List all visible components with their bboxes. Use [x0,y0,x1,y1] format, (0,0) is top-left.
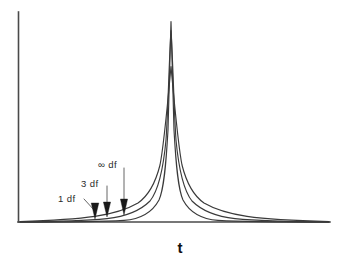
plot-canvas: 1 df 3 df ∞ df t [0,0,338,271]
annotation-1df: 1 df [58,193,99,219]
arrow-marker-inf-df [120,199,127,215]
label-3df: 3 df [81,178,98,189]
label-1df: 1 df [58,193,75,204]
x-axis-label: t [178,239,183,256]
t-distribution-figure: 1 df 3 df ∞ df t [0,0,338,271]
annotation-inf-df: ∞ df [98,159,128,215]
label-inf-df: ∞ df [98,159,117,170]
